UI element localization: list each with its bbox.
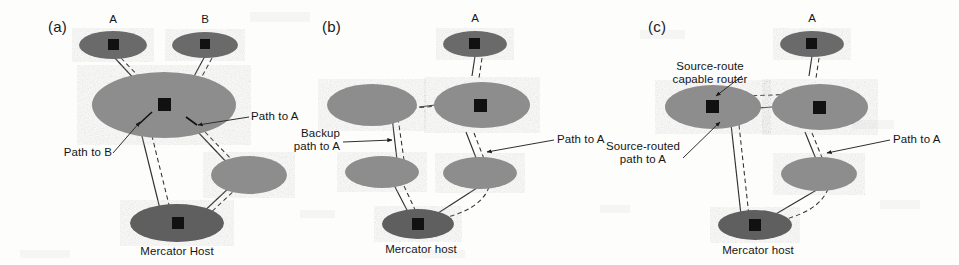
panel-a-router-b — [200, 39, 210, 49]
panel-a-router-center — [158, 98, 171, 111]
panel-b-network-left — [327, 84, 417, 126]
panel-c-router-a — [806, 38, 817, 49]
panel-a-caption-mercator-host: Mercator Host — [117, 245, 237, 258]
panel-c-tag: (c) — [648, 18, 666, 35]
panel-b-graph — [327, 31, 554, 239]
panel-c-network-lower-right — [781, 157, 857, 191]
figure-canvas — [0, 0, 959, 265]
panel-b-leader-backup-path — [343, 140, 392, 142]
panel-c-annotation-path-to-a: Path to A — [893, 133, 941, 146]
panel-a-router-a — [108, 39, 119, 50]
panel-a-annotation-path-to-b: Path to B — [40, 146, 112, 159]
panel-c-annotation-source-routed-path: Source-routed path to A — [600, 140, 686, 166]
panel-c-router-mercator-host — [749, 219, 761, 231]
panel-a-router-mercator-host — [172, 217, 184, 229]
panel-a-node-label-a: A — [93, 13, 133, 25]
panel-b-network-lower-left — [345, 156, 419, 188]
panel-b-annotation-path-to-a: Path to A — [557, 133, 605, 146]
panel-c-router-source-route-capable — [706, 100, 719, 113]
panel-b-caption-mercator-host: Mercator host — [363, 243, 479, 256]
panel-b-router-center — [474, 99, 487, 112]
panel-b-network-lower-right — [443, 157, 517, 189]
panel-a-network-right — [211, 156, 287, 194]
panel-a-annotation-path-to-a: Path to A — [251, 110, 299, 123]
panel-b-router-a — [469, 38, 480, 49]
panel-a-graph — [79, 31, 287, 242]
panel-c-node-label-a: A — [792, 12, 832, 24]
panel-b-tag: (b) — [322, 18, 341, 35]
panel-b-annotation-backup-path: Backup path to A — [288, 127, 340, 153]
panel-c-leader-path-to-a — [827, 140, 890, 153]
mercator-routing-figure: (a) (b) (c) A B Path to A Path to B Merc… — [0, 0, 959, 265]
panel-b-links — [392, 56, 480, 217]
panel-a-tag: (a) — [48, 18, 67, 35]
panel-b-router-mercator-host — [412, 218, 424, 230]
panel-c-caption-mercator-host: Mercator host — [700, 244, 816, 257]
panel-a-node-label-b: B — [185, 13, 225, 25]
panel-c-annotation-source-route-router: Source-route capable router — [650, 60, 770, 86]
panel-b-leader-path-to-a — [487, 140, 554, 152]
panel-c-router-center — [813, 101, 826, 114]
panel-b-node-label-a: A — [455, 12, 495, 24]
